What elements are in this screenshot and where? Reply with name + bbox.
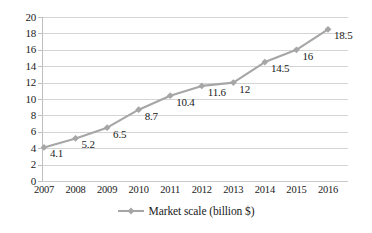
chart-legend: Market scale (billion $) [0,205,372,217]
y-tick-mark [38,132,42,133]
data-point-label: 8.7 [145,111,158,122]
y-tick-mark [38,148,42,149]
y-tick-mark [38,33,42,34]
legend-label: Market scale (billion $) [149,205,255,217]
series-market-scale [0,0,372,233]
data-point-label: 12 [239,84,250,95]
data-point-label: 6.5 [113,129,126,140]
data-point-label: 5.2 [82,139,95,150]
data-point-label: 18.5 [334,30,352,41]
series-line [44,29,328,147]
data-point-label: 10.4 [176,97,194,108]
data-point-label: 4.1 [50,148,63,159]
y-tick-mark [38,66,42,67]
data-point-label: 11.6 [208,87,226,98]
y-tick-mark [38,181,42,182]
y-tick-mark [38,115,42,116]
y-tick-mark [38,99,42,100]
data-point-marker [167,92,174,99]
line-chart: 02468101214161820 2007200820092010201120… [0,0,372,233]
data-point-marker [72,135,79,142]
y-tick-mark [38,165,42,166]
series-markers [41,26,332,151]
y-tick-mark [38,83,42,84]
data-point-marker [198,82,205,89]
data-point-label: 16 [302,51,313,62]
y-tick-mark [38,50,42,51]
data-point-label: 14.5 [271,63,289,74]
y-tick-mark [38,17,42,18]
legend-marker-icon [118,206,144,216]
